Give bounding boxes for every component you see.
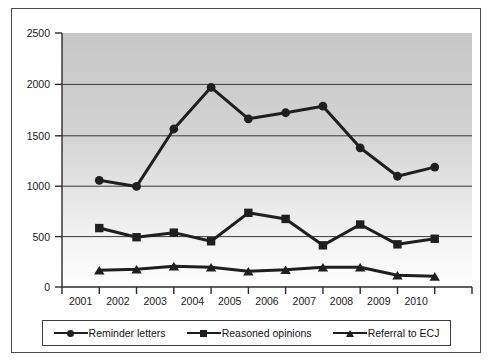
xtick-label-2009: 2009: [367, 295, 391, 307]
legend-item-referral-to-ecj: Referral to ECJ: [333, 327, 440, 339]
data-point: [319, 241, 327, 249]
ytick-label-1500: 1500: [27, 130, 51, 142]
data-point: [207, 237, 215, 245]
xtick-label-2001: 2001: [69, 295, 93, 307]
data-point: [132, 182, 141, 191]
ytick-label-2000: 2000: [27, 78, 51, 90]
chart-plot-svg: 2500 2000 1500 1000 500 0 2001 2002 2003…: [0, 0, 492, 364]
xtick-label-2006: 2006: [255, 295, 279, 307]
xtick-label-2004: 2004: [181, 295, 205, 307]
xtick-label-2005: 2005: [218, 295, 242, 307]
data-point: [95, 176, 104, 185]
plot-area-background: [62, 33, 472, 287]
legend-marker-triangle-icon: [333, 327, 367, 339]
legend-marker-circle-icon: [54, 327, 88, 339]
legend-label-referral-to-ecj: Referral to ECJ: [368, 327, 440, 339]
y-tick-labels: 2500 2000 1500 1000 500 0: [27, 27, 51, 293]
ytick-label-1000: 1000: [27, 180, 51, 192]
data-point: [132, 233, 140, 241]
data-point: [393, 172, 402, 181]
xtick-label-2002: 2002: [106, 295, 130, 307]
legend-label-reasoned-opinions: Reasoned opinions: [222, 327, 312, 339]
legend-marker-square-icon: [187, 327, 221, 339]
ytick-label-0: 0: [44, 281, 50, 293]
data-point: [95, 224, 103, 232]
data-point: [244, 114, 253, 123]
ytick-label-500: 500: [32, 231, 50, 243]
data-point: [281, 215, 289, 223]
y-axis: [55, 33, 62, 287]
x-axis: [62, 287, 472, 294]
legend-item-reminder-letters: Reminder letters: [54, 327, 166, 339]
xtick-label-2010: 2010: [404, 295, 428, 307]
data-point: [170, 228, 178, 236]
data-point: [356, 143, 365, 152]
data-point: [244, 209, 252, 217]
data-point: [207, 83, 216, 92]
xtick-label-2003: 2003: [144, 295, 168, 307]
data-point: [281, 108, 290, 117]
chart-root: 2500 2000 1500 1000 500 0 2001 2002 2003…: [0, 0, 492, 364]
data-point: [169, 125, 178, 134]
xtick-label-2007: 2007: [293, 295, 317, 307]
legend-item-reasoned-opinions: Reasoned opinions: [187, 327, 312, 339]
data-point: [356, 220, 364, 228]
ytick-label-2500: 2500: [27, 27, 51, 39]
legend-label-reminder-letters: Reminder letters: [89, 327, 166, 339]
xtick-label-2008: 2008: [330, 295, 354, 307]
data-point: [430, 163, 439, 172]
x-tick-labels: 2001 2002 2003 2004 2005 2006 2007 2008 …: [69, 295, 428, 307]
chart-legend: Reminder letters Reasoned opinions Refer…: [42, 320, 451, 346]
data-point: [431, 235, 439, 243]
data-point: [319, 102, 328, 111]
data-point: [393, 240, 401, 248]
